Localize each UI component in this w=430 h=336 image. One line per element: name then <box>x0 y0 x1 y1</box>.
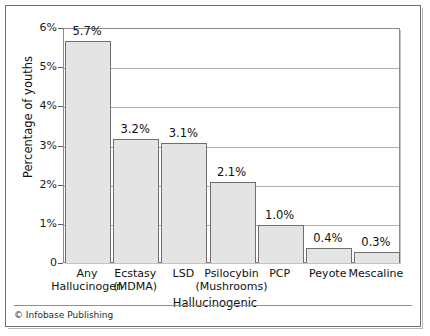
credit-divider <box>14 305 412 306</box>
y-axis-tick-label: 6% <box>26 21 57 34</box>
bar-value-label: 1.0% <box>250 208 310 222</box>
y-axis-tick-label: 2% <box>26 178 57 191</box>
bar[interactable] <box>258 225 304 264</box>
x-axis-title: Hallucinogenic <box>0 296 430 310</box>
bar[interactable] <box>354 252 400 264</box>
bar[interactable] <box>65 41 111 264</box>
x-axis-category-label-line1: Mescaline <box>349 267 404 280</box>
plot-area <box>63 28 400 263</box>
x-axis-category-label: Mescaline <box>331 268 421 281</box>
bar-value-label: 3.1% <box>153 126 213 140</box>
y-axis-tick-label: 3% <box>26 139 57 152</box>
bar[interactable] <box>113 139 159 264</box>
y-axis-tick-mark <box>58 263 63 264</box>
y-axis-tick-label: 4% <box>26 99 57 112</box>
credit-line: © Infobase Publishing <box>14 310 113 320</box>
bar-value-label: 5.7% <box>57 24 117 38</box>
y-axis-tick-label: 1% <box>26 217 57 230</box>
x-axis-category-label-line2: (MDMA) <box>90 281 180 294</box>
gridline <box>64 68 399 69</box>
bar-chart: Percentage of youths 01%2%3%4%5%6% 5.7%3… <box>0 0 430 336</box>
x-axis-category-label-line2: (Mushrooms) <box>187 281 277 294</box>
bar[interactable] <box>306 248 352 264</box>
bar-value-label: 0.3% <box>346 235 406 249</box>
bar[interactable] <box>210 182 256 264</box>
y-axis-tick-label: 5% <box>26 60 57 73</box>
bar-value-label: 2.1% <box>202 165 262 179</box>
gridline <box>64 107 399 108</box>
bar[interactable] <box>161 143 207 264</box>
